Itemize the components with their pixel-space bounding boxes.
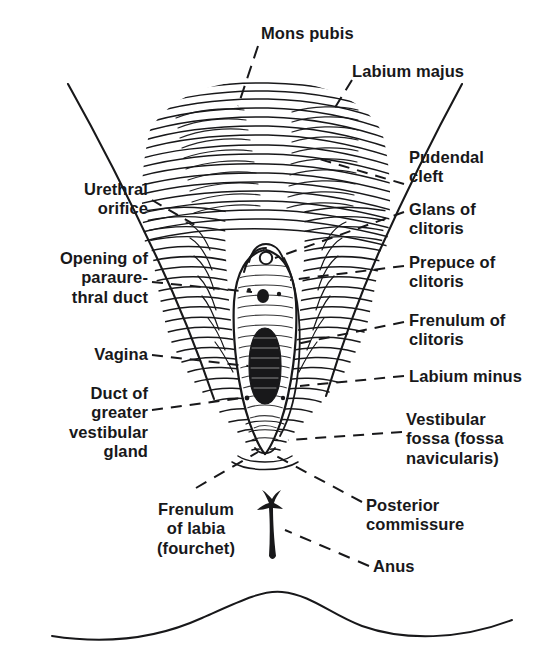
labium-majus-left — [140, 208, 271, 451]
leader-pudendal-cleft — [316, 158, 404, 184]
label-opening-of-paraurethral-duct: Opening of paraure- thral duct — [0, 249, 148, 307]
label-prepuce-of-clitoris: Prepuce of clitoris — [409, 253, 495, 292]
label-urethral-orifice: Urethral orifice — [0, 180, 148, 219]
labium-majus-right — [261, 208, 392, 451]
label-duct-of-greater-vestibular-gland: Duct of greater vestibular gland — [0, 384, 148, 461]
label-frenulum-of-clitoris: Frenulum of clitoris — [409, 311, 505, 350]
urethral-orifice — [257, 289, 269, 303]
vestibular-fossa — [246, 421, 284, 440]
buttock-contour — [52, 592, 512, 640]
label-vestibular-fossa: Vestibular fossa (fossa navicularis) — [406, 410, 504, 468]
posterior-commissure — [232, 456, 298, 470]
label-labium-majus: Labium majus — [352, 62, 464, 81]
leader-glans-of-clitoris — [275, 212, 404, 258]
leader-greater-vestibular-gland — [152, 398, 242, 410]
label-posterior-commissure: Posterior commissure — [366, 496, 464, 535]
anatomical-plate: Mons pubis Labium majus Pudendal cleft G… — [0, 0, 555, 671]
leader-vestibular-fossa — [288, 432, 402, 440]
leader-posterior-commissure — [276, 456, 362, 502]
leader-labium-minus — [300, 376, 404, 386]
label-anus: Anus — [373, 557, 415, 576]
label-glans-of-clitoris: Glans of clitoris — [409, 200, 476, 239]
label-labium-minus: Labium minus — [409, 367, 522, 386]
label-mons-pubis: Mons pubis — [261, 24, 354, 43]
leader-anus — [285, 530, 369, 566]
leader-frenulum-of-labia — [196, 452, 258, 488]
glans-of-clitoris — [260, 252, 272, 264]
label-vagina: Vagina — [0, 345, 148, 364]
label-pudendal-cleft: Pudendal cleft — [409, 148, 484, 187]
vaginal-orifice — [249, 328, 281, 404]
label-frenulum-of-labia: Frenulum of labia (fourchet) — [116, 500, 276, 558]
leader-vagina — [152, 355, 248, 366]
leader-prepuce-of-clitoris — [290, 266, 404, 280]
leader-mons-pubis — [238, 46, 258, 106]
